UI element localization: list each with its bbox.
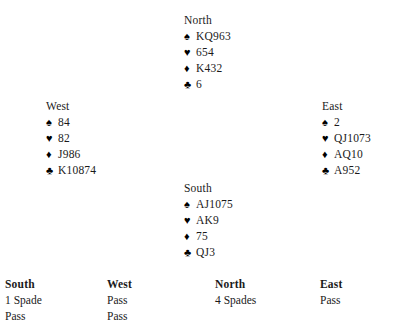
- hand-south-label: South: [184, 180, 233, 196]
- club-icon: ♣: [184, 244, 196, 260]
- hand-east-clubs-row: ♣A952: [322, 162, 371, 178]
- hand-west-clubs-row: ♣K10874: [46, 162, 96, 178]
- auction-bid-west: Pass: [107, 292, 215, 308]
- auction-header-north: North: [215, 276, 320, 292]
- auction-bid-north: 4 Spades: [215, 292, 320, 308]
- hand-east-spades-row: ♠2: [322, 114, 371, 130]
- hand-north-hearts-row: ♥654: [184, 44, 231, 60]
- hand-west: West ♠84 ♥82 ♦J986 ♣K10874: [46, 98, 96, 178]
- hand-west-spades-row: ♠84: [46, 114, 96, 130]
- hand-south-diamonds: 75: [196, 228, 208, 244]
- hand-east-clubs: A952: [334, 162, 360, 178]
- hand-west-clubs: K10874: [58, 162, 96, 178]
- hand-north-diamonds: K432: [196, 60, 222, 76]
- hand-west-label: West: [46, 98, 96, 114]
- hand-north-clubs-row: ♣6: [184, 76, 231, 92]
- hand-south-clubs: QJ3: [196, 244, 215, 260]
- heart-icon: ♥: [184, 212, 196, 228]
- auction-header-east: East: [320, 276, 403, 292]
- hand-east-label: East: [322, 98, 371, 114]
- hand-south-hearts: AK9: [196, 212, 219, 228]
- diamond-icon: ♦: [46, 146, 58, 162]
- hand-east-diamonds-row: ♦AQ10: [322, 146, 371, 162]
- auction-header-south: South: [0, 276, 107, 292]
- heart-icon: ♥: [322, 130, 334, 146]
- heart-icon: ♥: [46, 130, 58, 146]
- hand-south-spades-row: ♠AJ1075: [184, 196, 233, 212]
- auction-bid-south: 1 Spade: [0, 292, 107, 308]
- hand-south-clubs-row: ♣QJ3: [184, 244, 233, 260]
- spade-icon: ♠: [46, 114, 58, 130]
- heart-icon: ♥: [184, 44, 196, 60]
- auction-header-west: West: [107, 276, 215, 292]
- auction-table: South West North East 1 Spade Pass 4 Spa…: [0, 276, 403, 324]
- auction-header-row: South West North East: [0, 276, 403, 292]
- hand-west-diamonds: J986: [58, 146, 81, 162]
- club-icon: ♣: [46, 162, 58, 178]
- hand-west-diamonds-row: ♦J986: [46, 146, 96, 162]
- hand-north: North ♠KQ963 ♥654 ♦K432 ♣6: [184, 12, 231, 92]
- hand-south-spades: AJ1075: [196, 196, 233, 212]
- hand-south-diamonds-row: ♦75: [184, 228, 233, 244]
- club-icon: ♣: [322, 162, 334, 178]
- hand-west-spades: 84: [58, 114, 70, 130]
- spade-icon: ♠: [322, 114, 334, 130]
- hand-north-spades-row: ♠KQ963: [184, 28, 231, 44]
- hand-east-hearts: QJ1073: [334, 130, 371, 146]
- hand-west-hearts: 82: [58, 130, 70, 146]
- diamond-icon: ♦: [184, 60, 196, 76]
- hand-north-label: North: [184, 12, 231, 28]
- auction-row: Pass Pass: [0, 308, 403, 324]
- auction-row: 1 Spade Pass 4 Spades Pass: [0, 292, 403, 308]
- spade-icon: ♠: [184, 28, 196, 44]
- spade-icon: ♠: [184, 196, 196, 212]
- hand-north-spades: KQ963: [196, 28, 231, 44]
- auction-bid-north: [215, 308, 320, 324]
- auction-bid-west: Pass: [107, 308, 215, 324]
- auction-bid-south: Pass: [0, 308, 107, 324]
- club-icon: ♣: [184, 76, 196, 92]
- hand-east-hearts-row: ♥QJ1073: [322, 130, 371, 146]
- hand-east-diamonds: AQ10: [334, 146, 363, 162]
- hand-east-spades: 2: [334, 114, 340, 130]
- auction-bid-east: Pass: [320, 292, 403, 308]
- hand-north-hearts: 654: [196, 44, 214, 60]
- hand-north-diamonds-row: ♦K432: [184, 60, 231, 76]
- auction-bid-east: [320, 308, 403, 324]
- hand-south: South ♠AJ1075 ♥AK9 ♦75 ♣QJ3: [184, 180, 233, 260]
- hand-south-hearts-row: ♥AK9: [184, 212, 233, 228]
- hand-west-hearts-row: ♥82: [46, 130, 96, 146]
- hand-east: East ♠2 ♥QJ1073 ♦AQ10 ♣A952: [322, 98, 371, 178]
- diamond-icon: ♦: [184, 228, 196, 244]
- diamond-icon: ♦: [322, 146, 334, 162]
- hand-north-clubs: 6: [196, 76, 202, 92]
